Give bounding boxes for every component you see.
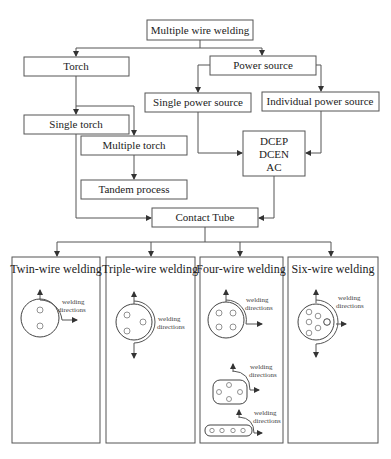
arrow [198, 112, 242, 153]
panel-title: Six-wire welding [292, 262, 375, 276]
single-power-source-label: Single power source [153, 96, 243, 108]
node-single-torch: Single torch [24, 115, 129, 134]
wire [216, 324, 222, 330]
panel-title: Four-wire welding [196, 262, 285, 276]
wire [227, 383, 232, 388]
annotation: welding [254, 409, 277, 417]
node-single-power-source: Single power source [145, 93, 251, 112]
tandem-process-label: Tandem process [98, 183, 169, 195]
wire [124, 312, 130, 318]
annotation: welding [62, 298, 85, 306]
wire [230, 324, 236, 330]
node-multiple-torch: Multiple torch [81, 136, 187, 155]
node-root: Multiple wire welding [147, 20, 253, 40]
wire [306, 319, 312, 325]
annotation: welding [158, 315, 181, 323]
root-label: Multiple wire welding [151, 24, 250, 36]
torch-label: Torch [63, 60, 89, 72]
wire [315, 325, 321, 331]
annotation: directions [245, 304, 273, 312]
wire [306, 309, 312, 315]
wire [217, 390, 222, 395]
wire [216, 310, 222, 316]
wire [230, 310, 236, 316]
contact-tube-shape [116, 304, 152, 340]
contact-tube-shape [208, 302, 244, 338]
annotation: directions [253, 417, 281, 425]
single-torch-label: Single torch [49, 118, 103, 130]
wire [37, 323, 43, 329]
current-type-dcen: DCEN [259, 148, 289, 160]
power-source-label: Power source [233, 59, 293, 71]
wire [238, 390, 243, 395]
wire [37, 307, 43, 313]
panel-twin-wire: Twin-wire welding welding directions [10, 257, 101, 443]
panel-title: Twin-wire welding [10, 262, 101, 276]
wire [124, 328, 130, 334]
panel-four-wire: Four-wire welding welding directions wel… [196, 257, 285, 443]
current-type-ac: AC [266, 161, 281, 173]
panel-six-wire: Six-wire welding welding directions [288, 257, 378, 443]
wire [220, 428, 224, 432]
wire [315, 313, 321, 319]
current-type-dcep: DCEP [260, 135, 288, 147]
arrow [306, 111, 321, 153]
annotation: welding [250, 363, 273, 371]
wire [241, 428, 245, 432]
wire [324, 319, 331, 326]
annotation: directions [249, 371, 277, 379]
node-contact-tube: Contact Tube [152, 208, 258, 227]
annotation: directions [58, 306, 86, 314]
wire [140, 319, 146, 325]
wire [227, 397, 232, 402]
panel-title: Triple-wire welding [102, 262, 198, 276]
node-individual-power-source: Individual power source [262, 92, 379, 111]
node-torch: Torch [24, 57, 129, 76]
welding-diagram: Multiple wire welding Torch Power source… [0, 0, 391, 459]
arrow [259, 176, 274, 218]
annotation: welding [338, 294, 361, 302]
annotation: welding [246, 296, 269, 304]
panel-triple-wire: Triple-wire welding welding directions [102, 257, 198, 443]
wire [231, 428, 235, 432]
wire [306, 330, 312, 336]
arrow [198, 65, 210, 92]
node-tandem-process: Tandem process [81, 180, 187, 199]
node-current-types: DCEP DCEN AC [243, 131, 305, 176]
wire [210, 428, 214, 432]
arrow [316, 65, 321, 91]
node-power-source: Power source [210, 56, 316, 75]
annotation: directions [157, 323, 185, 331]
contact-tube-label: Contact Tube [176, 211, 235, 223]
multiple-torch-label: Multiple torch [102, 139, 166, 151]
individual-power-source-label: Individual power source [267, 95, 374, 107]
annotation: directions [336, 302, 364, 310]
